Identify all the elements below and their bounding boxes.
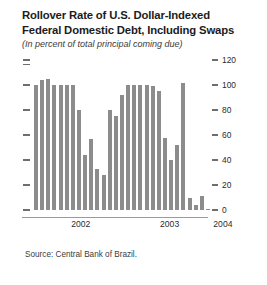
bar <box>145 85 149 210</box>
bar <box>114 116 118 210</box>
x-axis-labels: 200220032004 <box>22 219 244 233</box>
bar <box>108 110 112 210</box>
y-axis-tick-label: 80 <box>222 105 244 115</box>
x-axis-baseline <box>22 217 208 218</box>
y-axis-tick-label: 20 <box>222 180 244 190</box>
y-axis-tick-label: 0 <box>222 205 244 215</box>
bar <box>40 80 44 210</box>
y-axis-tick: 20 <box>212 180 244 190</box>
plot-wrapper: 020406080100120 <box>22 60 244 218</box>
bar <box>138 85 142 210</box>
y-axis-tick-mark <box>212 109 218 110</box>
y-axis-tick-mark-left <box>23 59 30 60</box>
bar <box>169 160 173 210</box>
chart-figure: Rollover Rate of U.S. Dollar-Indexed Fed… <box>0 0 267 285</box>
y-axis-tick-mark-left <box>23 134 30 135</box>
y-axis-tick: 100 <box>212 80 244 90</box>
y-axis-tick-mark <box>212 209 218 210</box>
plot-area <box>34 60 210 210</box>
bar <box>175 145 179 210</box>
bar <box>157 91 161 210</box>
y-axis-tick-mark-left <box>23 209 30 210</box>
y-axis-tick-label: 40 <box>222 155 244 165</box>
bar <box>126 85 130 210</box>
y-axis-tick-mark <box>212 184 218 185</box>
y-axis-tick: 120 <box>212 55 244 65</box>
y-axis-right: 020406080100120 <box>212 59 264 211</box>
y-axis-tick-mark-left <box>23 184 30 185</box>
bar <box>163 138 167 211</box>
bar <box>188 198 192 211</box>
y-axis-tick: 60 <box>212 130 244 140</box>
y-axis-tick: 80 <box>212 105 244 115</box>
bar <box>59 85 63 210</box>
bar <box>200 196 204 210</box>
bar <box>34 85 38 210</box>
bar <box>132 85 136 210</box>
bar-series <box>34 60 210 210</box>
page-title-line-1: Rollover Rate of U.S. Dollar-Indexed <box>22 8 252 23</box>
y-axis-tick-mark <box>212 134 218 135</box>
bar <box>83 155 87 210</box>
y-axis-tick-mark-left <box>23 109 30 110</box>
source-note: Source: Central Bank of Brazil. <box>25 250 137 259</box>
bar <box>181 83 185 211</box>
y-axis-tick: 0 <box>212 205 244 215</box>
y-axis-tick-mark <box>212 59 218 60</box>
y-axis-tick-label: 60 <box>222 130 244 140</box>
bar <box>194 205 198 210</box>
x-axis-tick-label: 2003 <box>160 219 179 229</box>
left-axis-ticks <box>22 60 34 210</box>
y-axis-tick-mark <box>212 84 218 85</box>
bar <box>46 79 50 210</box>
chart-subtitle: (In percent of total principal coming du… <box>22 38 252 50</box>
bar <box>206 209 210 210</box>
bar <box>52 85 56 210</box>
chart-title-block: Rollover Rate of U.S. Dollar-Indexed Fed… <box>22 8 252 50</box>
y-axis-tick-label: 100 <box>222 80 244 90</box>
bar <box>89 139 93 210</box>
y-axis-tick-mark <box>212 159 218 160</box>
bar <box>65 85 69 210</box>
bar <box>95 169 99 210</box>
bar <box>151 86 155 210</box>
y-axis-tick: 40 <box>212 155 244 165</box>
x-axis-tick-label: 2004 <box>213 219 232 229</box>
bar <box>120 95 124 210</box>
y-axis-tick-mark-left <box>23 84 30 85</box>
y-axis-tick-mark-left <box>23 159 30 160</box>
x-axis-tick-label: 2002 <box>71 219 90 229</box>
bar <box>77 110 81 210</box>
bar <box>71 85 75 210</box>
y-axis-tick-label: 120 <box>222 55 244 65</box>
page-title-line-2: Federal Domestic Debt, Including Swaps <box>22 23 252 38</box>
bar <box>102 175 106 210</box>
